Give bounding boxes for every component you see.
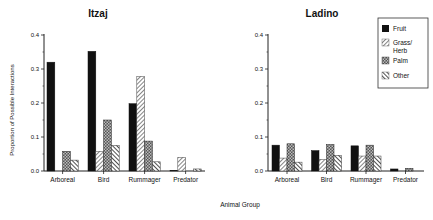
bar-fruit	[272, 145, 280, 171]
legend-item-other: Other	[382, 72, 410, 79]
x-tick-label: Arboreal	[50, 176, 75, 183]
y-tick-label: 0.3	[31, 66, 40, 72]
legend-label-herb: Herb	[393, 47, 407, 54]
legend-item-fruit: Fruit	[382, 25, 406, 32]
bar-other	[152, 162, 160, 171]
bar-other	[111, 146, 119, 172]
x-axis-label: Animal Group	[220, 201, 260, 209]
palm-swatch-icon	[382, 57, 389, 64]
legend-label-grass: Grass/	[393, 39, 412, 46]
grass-herb-swatch-icon	[382, 39, 389, 46]
legend-label-fruit: Fruit	[393, 25, 406, 32]
bar-palm	[366, 145, 374, 171]
y-tick-label: 0.1	[31, 134, 40, 140]
bar-grass-herb	[319, 159, 327, 171]
x-tick-label: Rummager	[350, 176, 383, 184]
y-tick-label: 0.1	[255, 134, 264, 140]
bar-palm	[104, 120, 112, 171]
bar-fruit	[129, 104, 137, 171]
bar-other	[334, 155, 342, 171]
x-tick-label: Rummager	[129, 176, 162, 184]
bar-grass-herb	[137, 76, 145, 171]
chart-legend: Fruit Grass/ Herb Palm Other	[378, 18, 428, 88]
itzaj-bar-chart: 0.00.10.20.30.4ArborealBirdRummagerPreda…	[31, 32, 205, 184]
bar-other	[193, 169, 201, 171]
bar-grass-herb	[280, 158, 288, 171]
bar-palm	[287, 144, 295, 171]
bar-fruit	[170, 170, 178, 171]
bar-fruit	[312, 151, 320, 171]
y-axis-label: Proportion of Possible Interactions	[9, 64, 15, 155]
bar-other	[295, 162, 303, 171]
bar-fruit	[391, 169, 399, 171]
bar-palm	[145, 141, 153, 171]
bar-palm	[63, 151, 71, 171]
bar-fruit	[351, 146, 359, 171]
bar-other	[374, 156, 382, 171]
bar-grass-herb	[178, 157, 186, 171]
chart-canvas: Itzaj Ladino Proportion of Possible Inte…	[0, 0, 433, 220]
bar-other	[70, 160, 78, 171]
y-tick-label: 0.2	[255, 100, 264, 106]
fruit-swatch-icon	[382, 25, 389, 32]
y-tick-label: 0.2	[31, 100, 40, 106]
x-tick-label: Bird	[98, 176, 110, 183]
bar-palm	[406, 168, 414, 171]
legend-item-palm: Palm	[382, 57, 408, 64]
legend-label-palm: Palm	[393, 57, 408, 64]
bar-grass-herb	[96, 151, 104, 171]
x-tick-label: Predator	[173, 176, 199, 183]
right-chart-title: Ladino	[306, 8, 339, 19]
x-tick-label: Arboreal	[275, 176, 300, 183]
chart-figure: Itzaj Ladino Proportion of Possible Inte…	[0, 0, 433, 220]
y-tick-label: 0.4	[31, 32, 40, 38]
bar-fruit	[88, 51, 96, 171]
y-tick-label: 0.0	[255, 168, 264, 174]
bar-grass-herb	[359, 156, 367, 171]
y-tick-label: 0.4	[255, 32, 264, 38]
legend-label-other: Other	[393, 72, 410, 79]
left-chart-title: Itzaj	[88, 8, 108, 19]
y-tick-label: 0.3	[255, 66, 264, 72]
y-tick-label: 0.0	[31, 168, 40, 174]
x-tick-label: Bird	[321, 176, 333, 183]
bar-palm	[327, 144, 335, 171]
bar-fruit	[47, 62, 55, 171]
other-swatch-icon	[382, 72, 389, 79]
x-tick-label: Predator	[393, 176, 419, 183]
